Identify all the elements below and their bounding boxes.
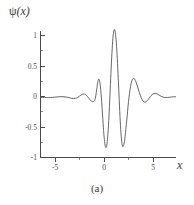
y-tick-label: -1 xyxy=(31,153,37,162)
tick-labels-group: -1-0.500.51-505 xyxy=(25,31,155,172)
data-curve-group xyxy=(41,29,176,147)
y-tick-label: -0.5 xyxy=(25,123,37,132)
ticks-group xyxy=(41,36,154,162)
x-tick-label: 0 xyxy=(102,163,106,172)
x-axis-label: x xyxy=(177,158,182,173)
x-tick-label: 5 xyxy=(151,163,155,172)
x-tick-label: -5 xyxy=(52,163,58,172)
psi-curve xyxy=(41,29,176,147)
figure-caption: (a) xyxy=(0,182,194,194)
y-tick-label: 0.5 xyxy=(28,62,38,71)
figure-container: ψ(x) -1-0.500.51-505 x (a) xyxy=(0,0,194,205)
y-tick-label: 0 xyxy=(33,92,37,101)
plot-canvas: -1-0.500.51-505 xyxy=(0,0,194,205)
y-tick-label: 1 xyxy=(33,31,37,40)
